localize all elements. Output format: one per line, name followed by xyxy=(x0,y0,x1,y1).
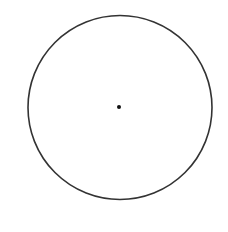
circle-diagram xyxy=(0,0,228,232)
diagram-canvas xyxy=(0,0,228,232)
center-point xyxy=(117,105,121,109)
